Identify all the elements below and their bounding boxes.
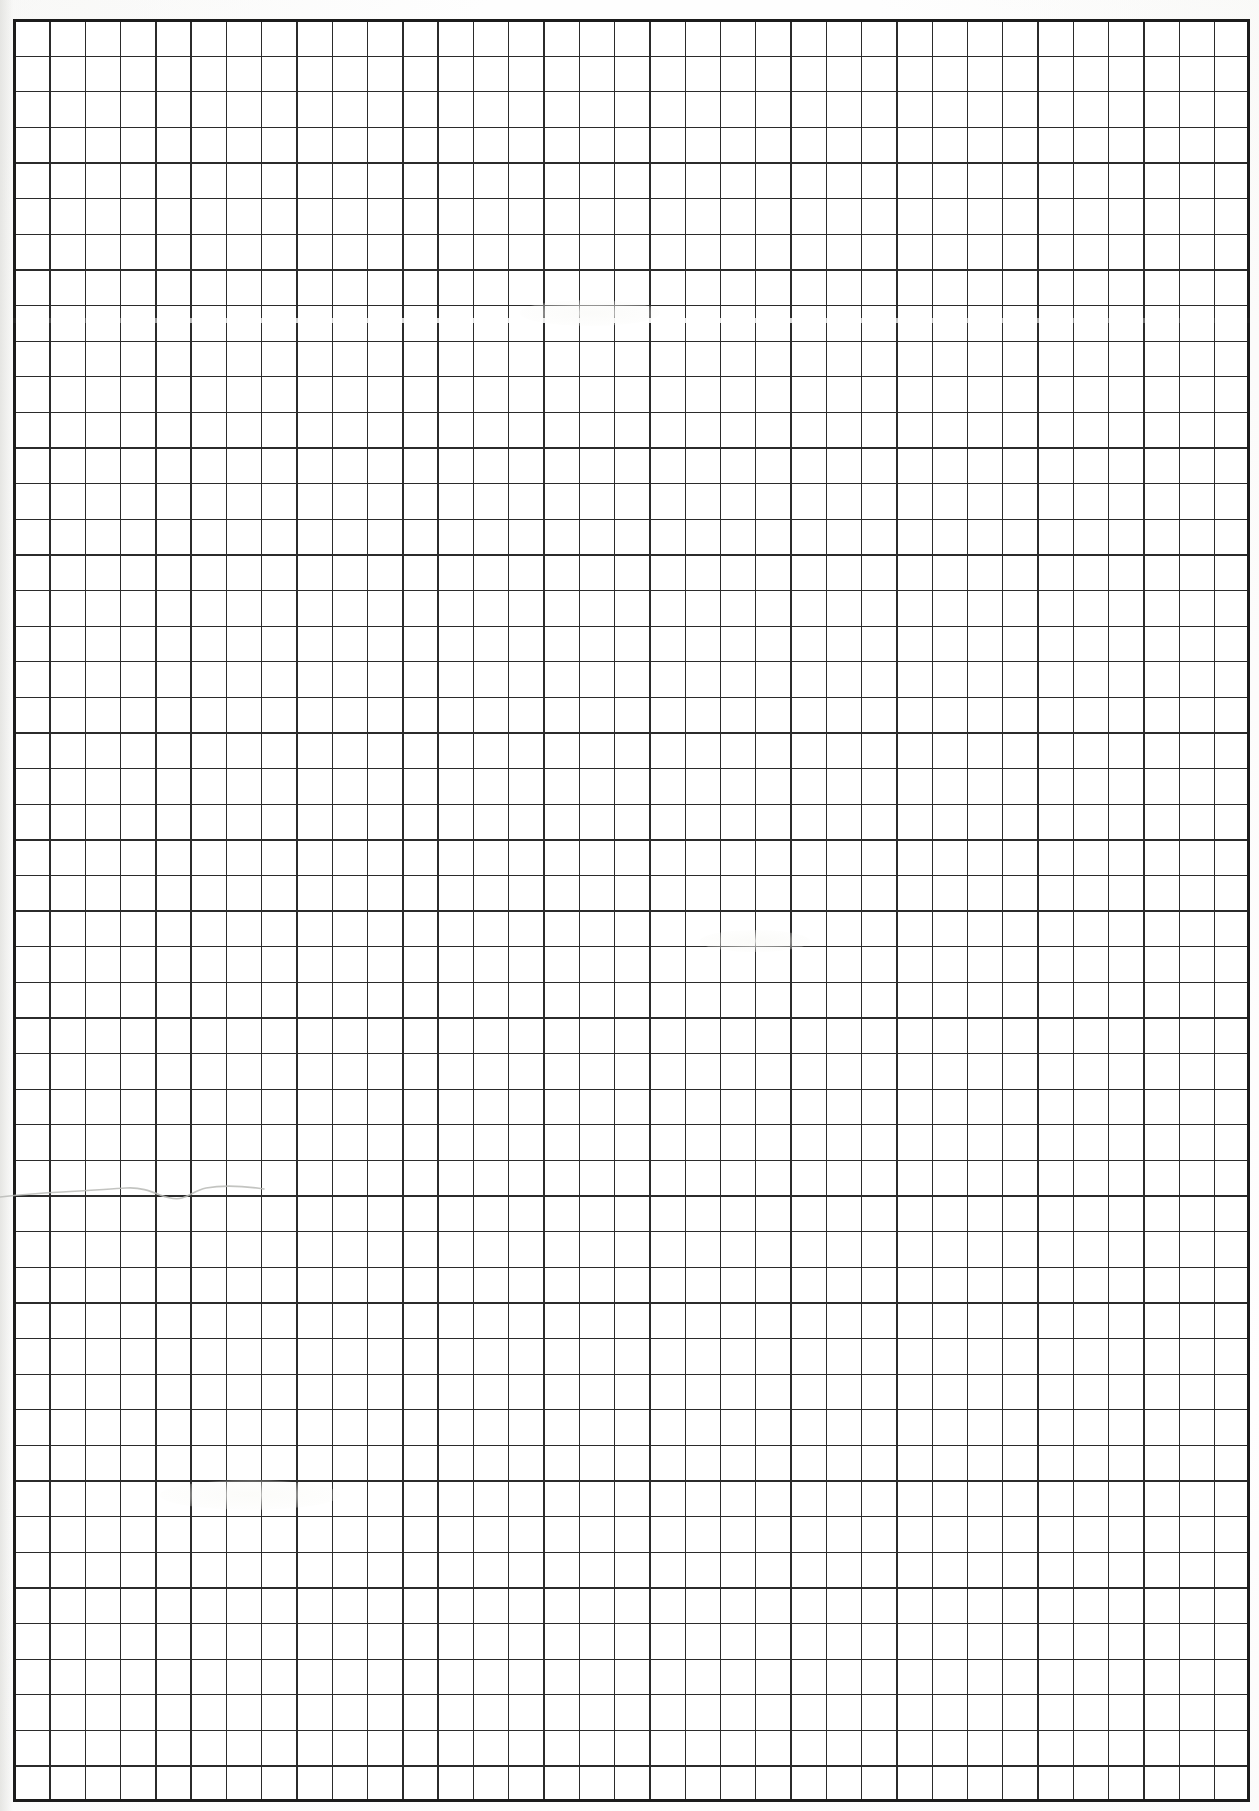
page-label	[0, 0, 1, 1]
grid-sheet	[14, 20, 1249, 1801]
binding-shadow	[0, 0, 13, 1811]
document-notes	[0, 0, 1, 1]
scanned-page: Blank Graph Paper Scan	[0, 0, 1259, 1811]
page-title: Blank Graph Paper Scan	[0, 0, 1, 1]
